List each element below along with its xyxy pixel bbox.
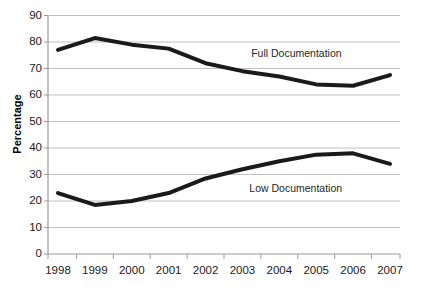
y-tick-label: 20 xyxy=(12,195,42,206)
x-tick-label: 2000 xyxy=(112,264,152,276)
plot-area xyxy=(0,0,424,295)
x-tick-label: 2007 xyxy=(370,264,410,276)
x-tick-label: 1999 xyxy=(75,264,115,276)
y-tick-label: 50 xyxy=(12,116,42,127)
gridlines xyxy=(48,16,400,228)
y-tick-label: 90 xyxy=(12,10,42,21)
y-tick-label: 10 xyxy=(12,222,42,233)
x-tick-label: 2005 xyxy=(296,264,336,276)
y-tick-label: 80 xyxy=(12,36,42,47)
axis-lines xyxy=(48,16,400,255)
x-axis-ticks xyxy=(48,254,400,259)
y-tick-label: 60 xyxy=(12,89,42,100)
x-tick-label: 2003 xyxy=(222,264,262,276)
x-tick-label: 2001 xyxy=(149,264,189,276)
y-tick-label: 0 xyxy=(12,248,42,259)
x-tick-label: 2006 xyxy=(333,264,373,276)
series-line-1 xyxy=(58,38,390,86)
y-tick-label: 70 xyxy=(12,63,42,74)
series-label-2: Low Documentation xyxy=(249,182,342,194)
y-tick-label: 30 xyxy=(12,169,42,180)
series-line-2 xyxy=(58,153,390,205)
x-tick-label: 1998 xyxy=(38,264,78,276)
y-tick-label: 40 xyxy=(12,142,42,153)
line-chart: Percentage 0102030405060708090 199819992… xyxy=(0,0,424,295)
x-tick-label: 2002 xyxy=(186,264,226,276)
x-tick-label: 2004 xyxy=(259,264,299,276)
series-label-1: Full Documentation xyxy=(251,47,341,59)
